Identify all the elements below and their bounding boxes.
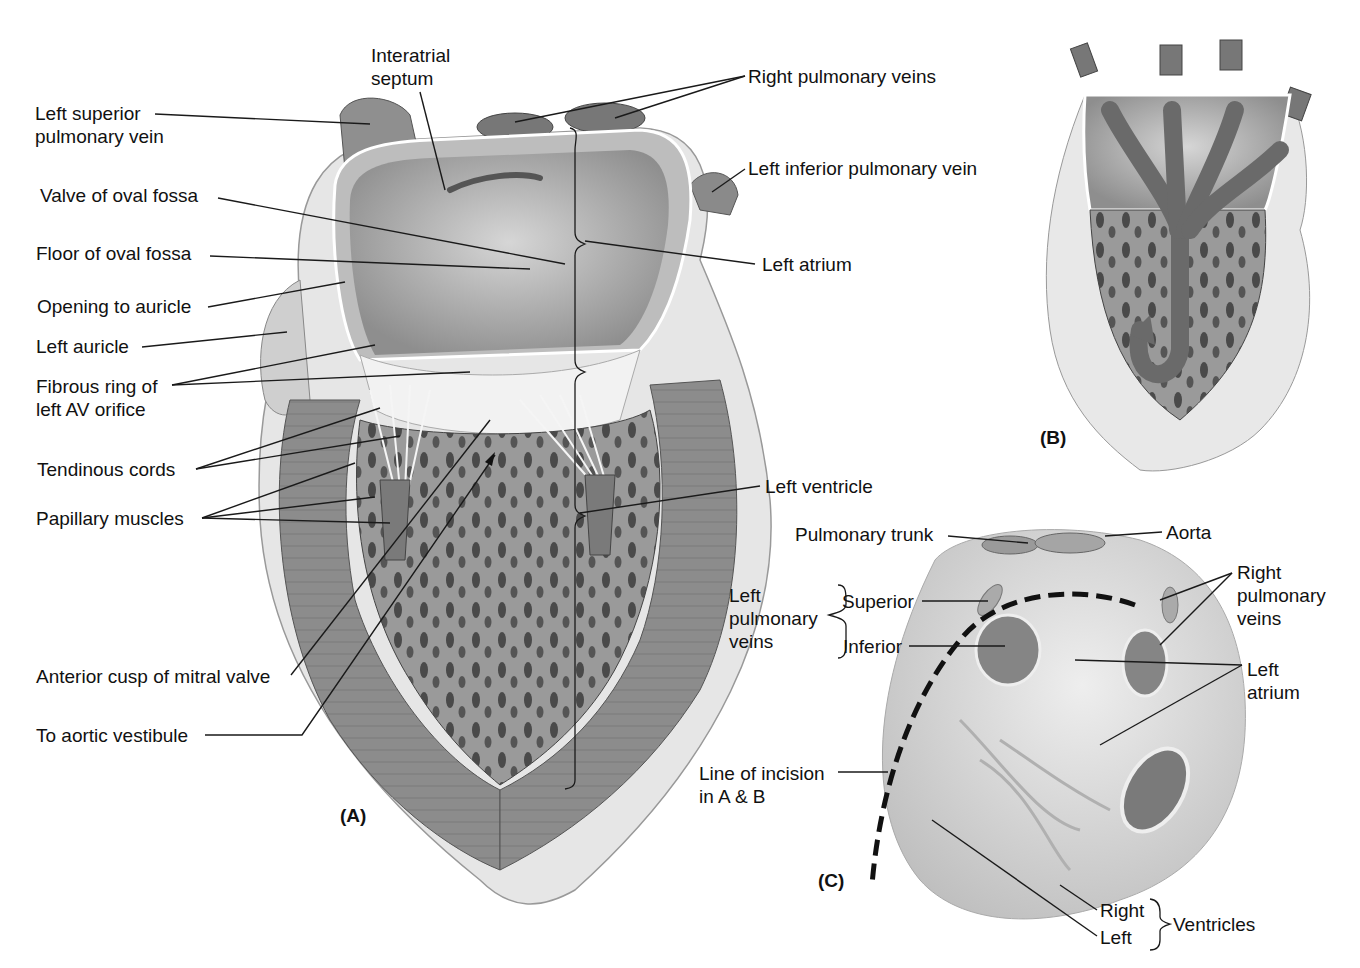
panel-label-c: (C): [818, 870, 844, 892]
heart-anatomy-illustration: [0, 0, 1360, 968]
label-papillary-muscles: Papillary muscles: [36, 507, 184, 530]
label-inferior: Inferior: [843, 635, 902, 658]
label-floor-of-oval-fossa: Floor of oval fossa: [36, 242, 191, 265]
label-left-superior-pulmonary-vein: Left superior pulmonary vein: [35, 102, 164, 148]
panel-label-b: (B): [1040, 427, 1066, 449]
label-right-pulmonary-veins-c: Right pulmonary veins: [1237, 561, 1326, 630]
label-left-ventricle-c: Left: [1100, 926, 1132, 949]
panel-a-heart: [259, 98, 771, 904]
label-left-inferior-pulmonary-vein: Left inferior pulmonary vein: [748, 157, 977, 180]
label-aortic-vestibule: To aortic vestibule: [36, 724, 188, 747]
label-superior: Superior: [842, 590, 914, 613]
label-left-auricle: Left auricle: [36, 335, 129, 358]
label-aorta: Aorta: [1166, 521, 1211, 544]
label-right-pulmonary-veins: Right pulmonary veins: [748, 65, 936, 88]
label-left-atrium-c: Left atrium: [1247, 658, 1300, 704]
label-right-ventricle: Right: [1100, 899, 1144, 922]
label-anterior-cusp-mitral-valve: Anterior cusp of mitral valve: [36, 665, 270, 688]
label-opening-to-auricle: Opening to auricle: [37, 295, 191, 318]
label-pulmonary-trunk: Pulmonary trunk: [795, 523, 933, 546]
label-left-atrium: Left atrium: [762, 253, 852, 276]
label-valve-of-oval-fossa: Valve of oval fossa: [40, 184, 198, 207]
label-tendinous-cords: Tendinous cords: [37, 458, 175, 481]
label-left-ventricle: Left ventricle: [765, 475, 873, 498]
panel-label-a: (A): [340, 805, 366, 827]
label-ventricles: Ventricles: [1173, 913, 1255, 936]
label-interatrial-septum: Interatrial septum: [371, 44, 450, 90]
panel-c-heart: [872, 530, 1245, 919]
label-left-pulmonary-veins: Left pulmonary veins: [729, 584, 818, 653]
label-line-of-incision: Line of incision in A & B: [699, 762, 825, 808]
label-fibrous-ring: Fibrous ring of left AV orifice: [36, 375, 157, 421]
panel-b-heart: [1046, 40, 1311, 471]
